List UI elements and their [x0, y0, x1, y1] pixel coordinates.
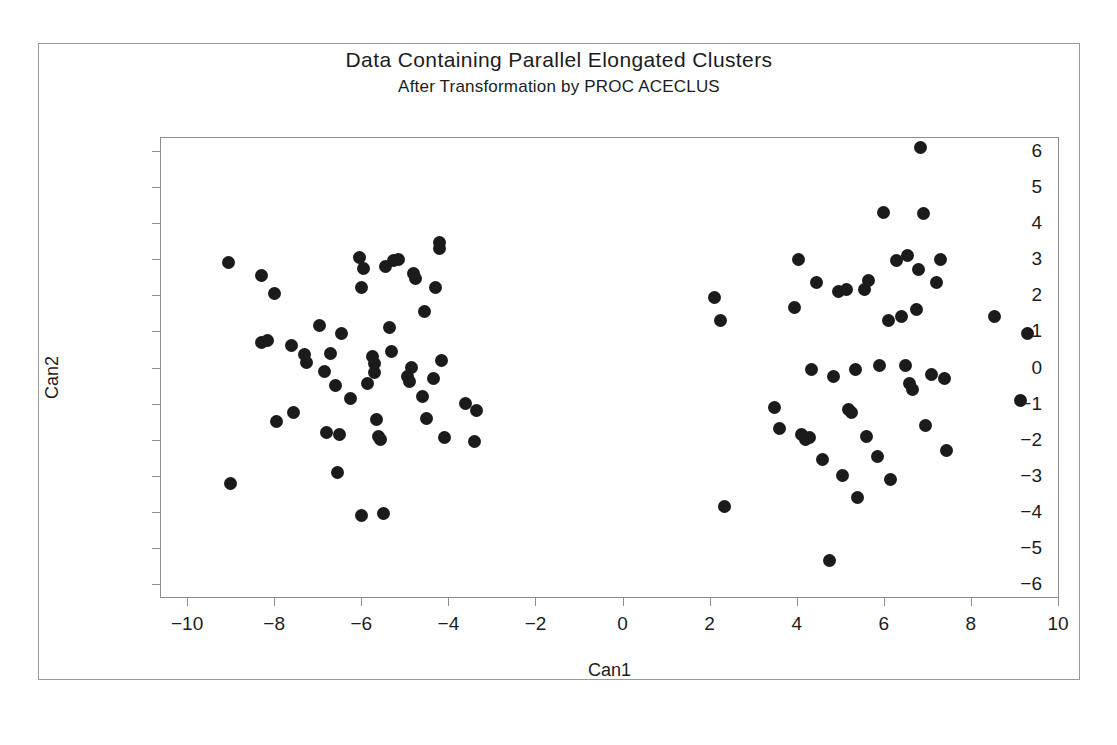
y-axis-tick	[152, 584, 161, 585]
y-axis-tick-label: 5	[1031, 176, 1042, 198]
scatter-point	[860, 430, 873, 443]
scatter-points-layer	[161, 138, 1058, 597]
x-axis-title: Can1	[160, 660, 1059, 681]
scatter-point	[261, 334, 274, 347]
scatter-point	[470, 404, 483, 417]
scatter-point	[718, 500, 731, 513]
scatter-point	[383, 321, 396, 334]
y-axis-title: Can2	[42, 318, 63, 438]
scatter-point	[899, 359, 912, 372]
y-axis-tick	[152, 187, 161, 188]
scatter-point	[468, 435, 481, 448]
y-axis-tick	[152, 512, 161, 513]
scatter-point	[906, 383, 919, 396]
y-axis-tick-label: −3	[1020, 465, 1042, 487]
x-axis-tick	[797, 597, 798, 606]
y-axis-tick-label: 6	[1031, 140, 1042, 162]
x-axis-tick	[187, 597, 188, 606]
x-axis-tick	[623, 597, 624, 606]
scatter-point	[895, 310, 908, 323]
scatter-point	[427, 372, 440, 385]
scatter-point	[355, 281, 368, 294]
figure-container: Data Containing Parallel Elongated Clust…	[0, 0, 1117, 745]
scatter-point	[816, 453, 829, 466]
y-axis-tick	[152, 331, 161, 332]
y-axis-tick	[152, 368, 161, 369]
scatter-point	[840, 283, 853, 296]
scatter-point	[910, 303, 923, 316]
scatter-point	[827, 370, 840, 383]
scatter-point	[361, 377, 374, 390]
x-axis-tick-label: 6	[879, 613, 890, 635]
x-axis-tick-label: 4	[791, 613, 802, 635]
scatter-point	[344, 392, 357, 405]
scatter-point	[851, 491, 864, 504]
scatter-point	[438, 431, 451, 444]
x-axis-tick-label: 2	[704, 613, 715, 635]
scatter-point	[405, 361, 418, 374]
x-axis-tick	[361, 597, 362, 606]
x-axis-tick-label: −2	[525, 613, 547, 635]
x-axis-tick	[448, 597, 449, 606]
scatter-point	[374, 433, 387, 446]
scatter-point	[714, 314, 727, 327]
scatter-point	[222, 256, 235, 269]
scatter-point	[392, 253, 405, 266]
scatter-point	[901, 249, 914, 262]
scatter-point	[849, 363, 862, 376]
y-axis-tick-label: 2	[1031, 284, 1042, 306]
y-axis-tick	[152, 404, 161, 405]
scatter-point	[313, 319, 326, 332]
scatter-point	[285, 339, 298, 352]
x-axis-tick	[971, 597, 972, 606]
y-axis-tick	[152, 295, 161, 296]
y-axis-tick-label: −1	[1020, 393, 1042, 415]
y-axis-tick-label: −2	[1020, 429, 1042, 451]
scatter-point	[810, 276, 823, 289]
scatter-point	[884, 473, 897, 486]
scatter-point	[803, 431, 816, 444]
x-axis-tick	[1058, 597, 1059, 606]
scatter-point	[433, 242, 446, 255]
scatter-point	[768, 401, 781, 414]
y-axis-tick-label: −6	[1020, 573, 1042, 595]
y-axis-tick	[152, 476, 161, 477]
scatter-point	[385, 345, 398, 358]
scatter-point	[331, 466, 344, 479]
x-axis-tick-label: −10	[171, 613, 203, 635]
x-axis-tick-label: −4	[438, 613, 460, 635]
scatter-point	[845, 406, 858, 419]
scatter-point	[871, 450, 884, 463]
x-axis-tick	[884, 597, 885, 606]
scatter-point	[357, 262, 370, 275]
scatter-point	[409, 272, 422, 285]
scatter-point	[287, 406, 300, 419]
scatter-point	[370, 413, 383, 426]
x-axis-tick	[535, 597, 536, 606]
scatter-point	[318, 365, 331, 378]
scatter-point	[934, 253, 947, 266]
scatter-point	[788, 301, 801, 314]
y-axis-tick-label: 0	[1031, 357, 1042, 379]
x-axis-tick-label: −8	[263, 613, 285, 635]
scatter-point	[368, 366, 381, 379]
scatter-point	[805, 363, 818, 376]
y-axis-tick-label: −4	[1020, 501, 1042, 523]
x-axis-tick	[710, 597, 711, 606]
y-axis-tick-label: 4	[1031, 212, 1042, 234]
scatter-point	[914, 141, 927, 154]
scatter-point	[416, 390, 429, 403]
scatter-point	[420, 412, 433, 425]
scatter-point	[708, 291, 721, 304]
x-axis-tick	[274, 597, 275, 606]
y-axis-tick	[152, 440, 161, 441]
scatter-point	[435, 354, 448, 367]
scatter-point	[403, 375, 416, 388]
scatter-point	[320, 426, 333, 439]
scatter-point	[224, 477, 237, 490]
scatter-point	[925, 368, 938, 381]
scatter-point	[268, 287, 281, 300]
scatter-point	[300, 356, 313, 369]
scatter-point	[418, 305, 431, 318]
scatter-point	[270, 415, 283, 428]
